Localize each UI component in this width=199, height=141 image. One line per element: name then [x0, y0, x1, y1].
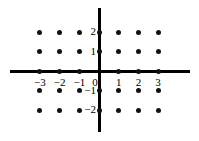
x-tick-label-neg3: −3	[32, 77, 48, 88]
data-point	[116, 49, 121, 54]
y-axis-line	[98, 8, 101, 132]
lattice-plot-figure: −3−2−10123 21−1−2	[0, 0, 199, 141]
data-point	[136, 88, 141, 93]
data-point	[116, 108, 121, 113]
data-point	[37, 49, 42, 54]
y-tick-label-neg1: −1	[80, 85, 96, 96]
data-point	[136, 108, 141, 113]
data-point	[97, 49, 102, 54]
x-tick-label-neg2: −2	[52, 77, 68, 88]
data-point	[156, 69, 161, 74]
data-point	[37, 30, 42, 35]
data-point	[37, 108, 42, 113]
data-point	[37, 88, 42, 93]
y-tick-label-neg2: −2	[80, 104, 96, 115]
x-tick-label-3: 3	[150, 77, 166, 88]
data-point	[136, 49, 141, 54]
data-point	[97, 88, 102, 93]
data-point	[57, 108, 62, 113]
data-point	[37, 69, 42, 74]
data-point	[156, 88, 161, 93]
data-point	[136, 69, 141, 74]
data-point	[116, 69, 121, 74]
data-point	[57, 30, 62, 35]
data-point	[57, 49, 62, 54]
data-point	[77, 69, 82, 74]
data-point	[116, 30, 121, 35]
data-point	[97, 30, 102, 35]
x-tick-label-2: 2	[130, 77, 146, 88]
y-tick-label-2: 2	[80, 26, 96, 37]
x-tick-label-1: 1	[111, 77, 127, 88]
data-point	[136, 30, 141, 35]
data-point	[156, 30, 161, 35]
y-tick-label-1: 1	[80, 46, 96, 57]
data-point	[97, 108, 102, 113]
data-point	[156, 108, 161, 113]
data-point	[116, 88, 121, 93]
data-point	[57, 69, 62, 74]
data-point	[57, 88, 62, 93]
data-point	[156, 49, 161, 54]
